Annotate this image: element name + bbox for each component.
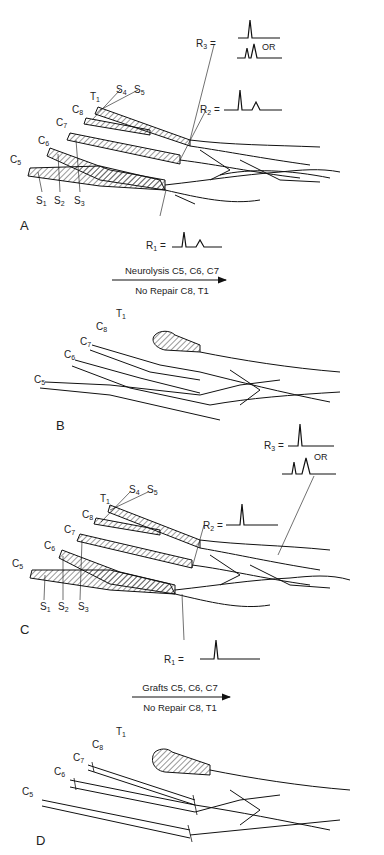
- label-r3-c: R3 =: [264, 441, 284, 454]
- panel-label-d: D: [36, 833, 45, 848]
- label-c7-c: C7: [64, 525, 75, 538]
- caption-no-repair-cd: No Repair C8, T1: [100, 702, 260, 713]
- label-c8-d: C8: [92, 740, 103, 753]
- label-c6-b: C6: [64, 350, 75, 363]
- label-s2-a: S2: [54, 196, 65, 209]
- label-s3-a: S3: [74, 196, 85, 209]
- label-c7-d: C7: [73, 753, 84, 766]
- label-c8-c: C8: [82, 510, 93, 523]
- label-c6-a: C6: [38, 136, 49, 149]
- label-r3-a: R3 =: [196, 39, 216, 52]
- label-t1-d: T1: [116, 727, 126, 740]
- panel-label-b: B: [56, 418, 65, 433]
- label-c5-a: C5: [10, 155, 21, 168]
- label-s5-a: S5: [134, 85, 145, 98]
- panel-d-drawing: [42, 749, 350, 842]
- label-c7-b: C7: [80, 337, 91, 350]
- label-c8-b: C8: [96, 322, 107, 335]
- label-t1-a: T1: [90, 92, 100, 105]
- label-s5-c: S5: [147, 485, 158, 498]
- label-s1-a: S1: [36, 196, 47, 209]
- caption-neurolysis: Neurolysis C5, C6, C7: [92, 265, 252, 276]
- label-c5-d: C5: [22, 787, 33, 800]
- label-s3-c: S3: [78, 602, 89, 615]
- label-t1-c: T1: [100, 494, 110, 507]
- label-c5-c: C5: [12, 559, 23, 572]
- label-r1-c: R1 =: [164, 655, 184, 668]
- label-t1-b: T1: [116, 309, 126, 322]
- panel-a-drawing: [28, 20, 340, 247]
- label-s1-c: S1: [40, 602, 51, 615]
- label-r1-a: R1 =: [146, 241, 166, 254]
- panel-label-c: C: [20, 622, 29, 637]
- label-s2-c: S2: [58, 602, 69, 615]
- caption-grafts: Grafts C5, C6, C7: [100, 682, 260, 693]
- label-c6-d: C6: [54, 767, 65, 780]
- label-r2-a: R2 =: [200, 105, 220, 118]
- panel-c-drawing: [30, 424, 350, 659]
- label-c6-c: C6: [44, 541, 55, 554]
- label-r2-c: R2 =: [203, 521, 223, 534]
- label-s4-a: S4: [116, 85, 127, 98]
- panel-label-a: A: [20, 218, 29, 233]
- caption-no-repair-ab: No Repair C8, T1: [92, 285, 252, 296]
- label-or-c: OR: [314, 452, 328, 462]
- label-or-a: OR: [262, 42, 276, 52]
- label-s4-c: S4: [129, 485, 140, 498]
- label-c7-a: C7: [56, 118, 67, 131]
- label-c5-b: C5: [34, 375, 45, 388]
- label-c8-a: C8: [72, 105, 83, 118]
